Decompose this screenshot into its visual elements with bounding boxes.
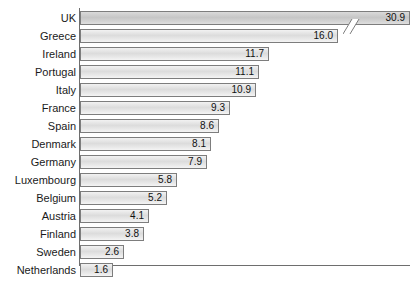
bar-value-label: 7.9 [167, 155, 207, 169]
bar-value-label: 10.9 [216, 83, 256, 97]
bar-container: 9.3 [80, 101, 230, 115]
bar-container: 7.9 [80, 155, 207, 169]
category-label: Belgium [0, 189, 76, 207]
bar-container: 11.7 [80, 47, 269, 61]
category-label: Sweden [0, 243, 76, 261]
bar-value-label: 5.2 [127, 191, 167, 205]
bar-row: Austria4.1 [0, 207, 414, 225]
bar-row: Belgium5.2 [0, 189, 414, 207]
bar-container: 30.9 [80, 11, 410, 25]
bar-container: 3.8 [80, 227, 144, 241]
bar-container: 4.1 [80, 209, 149, 223]
bar-container: 16.0 [80, 29, 338, 43]
bar-container: 11.1 [80, 65, 259, 79]
bar-container: 1.6 [80, 263, 113, 277]
bar-value-label: 5.8 [137, 173, 177, 187]
bar-value-label: 9.3 [190, 101, 230, 115]
bar-value-label: 8.6 [179, 119, 219, 133]
bar-container: 5.8 [80, 173, 177, 187]
bar-container: 10.9 [80, 83, 256, 97]
bar-value-label: 11.1 [219, 65, 259, 79]
bar-value-label: 3.8 [104, 227, 144, 241]
category-label: Luxembourg [0, 171, 76, 189]
category-label: Denmark [0, 135, 76, 153]
category-label: Spain [0, 117, 76, 135]
bar-row: Sweden2.6 [0, 243, 414, 261]
category-label: Finland [0, 225, 76, 243]
bar-container: 5.2 [80, 191, 167, 205]
category-label: Netherlands [0, 261, 76, 279]
plot-area: UK30.9Greece16.0Ireland11.7Portugal11.1I… [0, 0, 414, 283]
bar-row: Italy10.9 [0, 81, 414, 99]
bar-value-label: 11.7 [229, 47, 269, 61]
category-label: Italy [0, 81, 76, 99]
bar-row: Spain8.6 [0, 117, 414, 135]
bar-row: France9.3 [0, 99, 414, 117]
category-label: UK [0, 9, 76, 27]
category-label: Portugal [0, 63, 76, 81]
bar [80, 11, 410, 25]
bar-row: Portugal11.1 [0, 63, 414, 81]
bar-value-label: 1.6 [80, 263, 113, 277]
bar-container: 8.1 [80, 137, 211, 151]
bar-row: UK30.9 [0, 9, 414, 27]
bar-container: 8.6 [80, 119, 219, 133]
bar-value-label: 30.9 [370, 11, 410, 25]
bar-row: Luxembourg5.8 [0, 171, 414, 189]
bar-value-label: 4.1 [109, 209, 149, 223]
bar-row: Ireland11.7 [0, 45, 414, 63]
bar-value-label: 16.0 [298, 29, 338, 43]
category-label: Ireland [0, 45, 76, 63]
bar-chart: UK30.9Greece16.0Ireland11.7Portugal11.1I… [0, 0, 414, 283]
bar-row: Netherlands1.6 [0, 261, 414, 279]
bar-row: Finland3.8 [0, 225, 414, 243]
bar-value-label: 2.6 [84, 245, 124, 259]
bar-value-label: 8.1 [171, 137, 211, 151]
bar-container: 2.6 [80, 245, 124, 259]
category-label: Germany [0, 153, 76, 171]
category-label: Austria [0, 207, 76, 225]
bar-row: Germany7.9 [0, 153, 414, 171]
category-label: France [0, 99, 76, 117]
bar-row: Denmark8.1 [0, 135, 414, 153]
category-label: Greece [0, 27, 76, 45]
bar-row: Greece16.0 [0, 27, 414, 45]
